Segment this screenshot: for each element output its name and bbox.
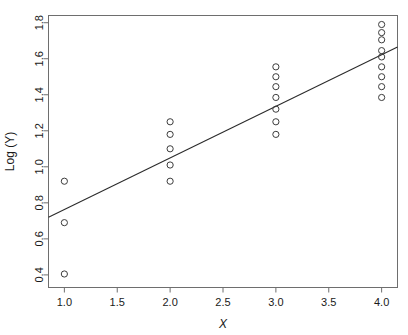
x-tick-label: 4.0 [374,296,389,308]
plot-canvas: 0.40.60.81.01.21.41.61.8 1.01.52.02.53.0… [0,0,408,335]
x-tick-label: 3.5 [321,296,336,308]
y-tick-label: 1.6 [34,51,46,66]
x-tick-label: 2.0 [162,296,177,308]
y-tick-label: 1.8 [34,15,46,30]
scatter-plot-figure: 0.40.60.81.01.21.41.61.8 1.01.52.02.53.0… [0,0,408,335]
y-tick-label: 0.6 [34,231,46,246]
x-tick-label: 3.0 [268,296,283,308]
y-tick-label: 1.4 [34,87,46,102]
x-tick-label: 1.5 [110,296,125,308]
y-tick-label: 0.4 [34,267,46,282]
y-tick-label: 1.2 [34,123,46,138]
x-tick-label: 2.5 [215,296,230,308]
x-axis-title: X [218,317,228,331]
x-tick-label: 1.0 [57,296,72,308]
y-tick-label: 1.0 [34,159,46,174]
y-axis-title: Log (Y) [3,132,17,171]
y-tick-label: 0.8 [34,195,46,210]
plot-background [0,0,408,335]
